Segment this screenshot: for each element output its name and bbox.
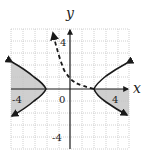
origin-label: 0 [59, 94, 65, 105]
tick-label-x-4: 4 [112, 94, 118, 105]
y-axis-label: y [65, 5, 75, 21]
axes [11, 30, 128, 149]
tick-label-y-neg4: -4 [52, 132, 62, 143]
tick-label-y-4: 4 [60, 37, 66, 48]
graph: y x 4 -4 0 4 -4 [0, 0, 148, 154]
x-axis-label: x [133, 80, 141, 96]
tick-label-x-neg4: -4 [12, 94, 22, 105]
